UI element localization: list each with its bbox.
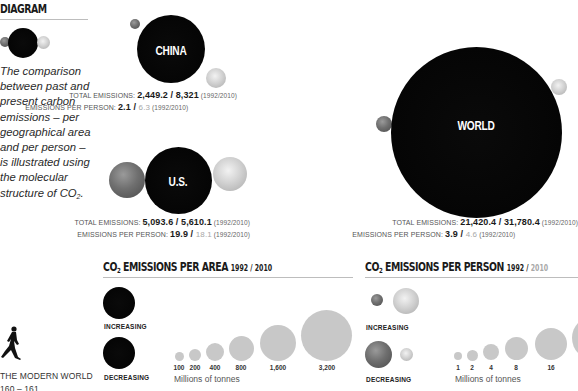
scale-label: 200 xyxy=(190,364,201,371)
legend-person-increasing-light-atom xyxy=(393,288,419,314)
us-total-row: TOTAL EMISSIONS: 5,093.6 / 5,610.1 (1992… xyxy=(74,217,250,229)
us-per-person-row: EMISSIONS PER PERSON: 19.9 / 18.1 (1992/… xyxy=(74,229,250,241)
legend-area-increasing-atom xyxy=(103,287,135,319)
title-divider xyxy=(0,19,88,20)
china-per-person-row: EMISSIONS PER PERSON: 2.1 / 6.3 (1992/20… xyxy=(25,102,237,114)
legend-person-unit: Millions of tonnes xyxy=(455,374,521,384)
scale-bubble-4 xyxy=(483,344,499,360)
us-label: U.S. xyxy=(169,174,188,189)
world-total-row: TOTAL EMISSIONS: 21,420.4 / 31,780.4 (19… xyxy=(392,217,578,229)
legend-area-divider xyxy=(103,277,353,278)
molecule-icon-center-atom xyxy=(8,28,38,58)
us-2010-per-person-atom xyxy=(213,157,247,191)
scale-bubble-100 xyxy=(175,352,184,361)
legend-area-decreasing-label: DECREASING xyxy=(104,374,149,381)
scale-bubble-400 xyxy=(206,343,224,361)
footer-page-numbers: 160 – 161 xyxy=(0,384,39,391)
world-stats: TOTAL EMISSIONS: 21,420.4 / 31,780.4 (19… xyxy=(392,217,578,240)
scale-bubble-32-partial xyxy=(572,316,578,360)
scale-label: 3,200 xyxy=(319,364,335,371)
legend-area-title: CO2 EMISSIONS PER AREA 1992 / 2010 xyxy=(103,260,272,275)
scale-bubble-200 xyxy=(189,349,201,361)
scale-bubble-1 xyxy=(454,352,462,360)
legend-person-decreasing-dark-atom xyxy=(365,341,392,368)
world-1992-per-person-atom xyxy=(376,116,392,132)
scale-label: 100 xyxy=(174,364,185,371)
china-2010-per-person-atom xyxy=(206,68,226,88)
scale-label: 1,600 xyxy=(270,364,286,371)
world-total-emissions-atom xyxy=(391,47,562,218)
scale-label: 800 xyxy=(236,364,247,371)
us-stats: TOTAL EMISSIONS: 5,093.6 / 5,610.1 (1992… xyxy=(74,217,250,240)
intro-body: The comparison between past and present … xyxy=(0,65,90,199)
footer-section-title: THE MODERN WORLD xyxy=(0,371,93,381)
intro-text: The comparison between past and present … xyxy=(0,64,96,204)
legend-area-decreasing-atom xyxy=(103,337,135,369)
china-stats: TOTAL EMISSIONS: 2,449.2 / 8,321 (1992/2… xyxy=(69,90,237,113)
legend-person-decreasing-label: DECREASING xyxy=(366,376,411,383)
scale-label: 2 xyxy=(470,364,474,371)
intro-period: . xyxy=(81,187,84,199)
scale-label: 16 xyxy=(547,364,554,371)
scale-bubble-2 xyxy=(467,350,478,361)
legend-area-unit: Millions of tonnes xyxy=(174,374,240,384)
legend-person-title: CO2 EMISSIONS PER PERSON 1992 / 2010 xyxy=(365,260,548,275)
world-2010-per-person-atom xyxy=(551,79,567,95)
scale-label: 1 xyxy=(456,364,460,371)
scale-bubble-800 xyxy=(229,336,254,361)
legend-area-increasing-label: INCREASING xyxy=(104,323,147,330)
legend-person-divider xyxy=(365,277,578,278)
scale-bubble-1600 xyxy=(260,325,296,361)
scale-label: 4 xyxy=(489,364,493,371)
scale-label: 8 xyxy=(514,364,518,371)
legend-person-increasing-dark-atom xyxy=(371,294,383,306)
china-total-row: TOTAL EMISSIONS: 2,449.2 / 8,321 (1992/2… xyxy=(69,90,237,102)
molecule-icon-light-atom xyxy=(37,36,50,49)
us-1992-per-person-atom xyxy=(109,162,145,198)
runner-icon xyxy=(0,326,22,362)
china-1992-per-person-atom xyxy=(130,19,140,29)
diagram-title: DIAGRAM xyxy=(0,2,47,16)
scale-bubble-3200 xyxy=(301,310,352,361)
legend-person-decreasing-light-atom xyxy=(400,348,413,361)
world-label: WORLD xyxy=(457,118,494,133)
scale-bubble-16 xyxy=(535,328,567,360)
china-label: CHINA xyxy=(156,43,187,58)
scale-bubble-8 xyxy=(505,337,528,360)
scale-label: 400 xyxy=(210,364,221,371)
legend-person-increasing-label: INCREASING xyxy=(366,324,409,331)
world-per-person-row: EMISSIONS PER PERSON: 3.9 / 4.6 (1992/20… xyxy=(352,229,578,241)
